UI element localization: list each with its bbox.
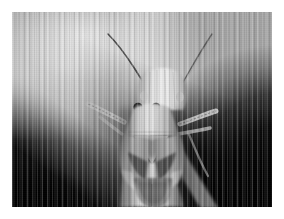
head xyxy=(138,68,187,110)
left-foreleg xyxy=(88,104,124,134)
screenshot-root xyxy=(0,0,284,219)
insect-subject xyxy=(12,12,272,207)
photograph xyxy=(12,12,272,207)
